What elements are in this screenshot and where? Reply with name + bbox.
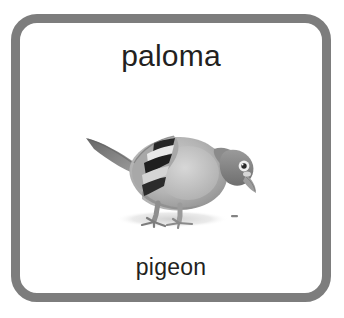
- beak-cere: [243, 171, 251, 176]
- flashcard-inner: paloma: [20, 23, 322, 293]
- ground-speck: [231, 215, 238, 217]
- translation-word-label: pigeon: [20, 254, 322, 281]
- pigeon-eye-glint: [242, 164, 244, 166]
- pigeon-leg-front: [179, 205, 180, 222]
- native-word-label: paloma: [20, 39, 322, 73]
- vocabulary-flashcard: paloma: [11, 14, 331, 302]
- pigeon-illustration: [76, 111, 266, 236]
